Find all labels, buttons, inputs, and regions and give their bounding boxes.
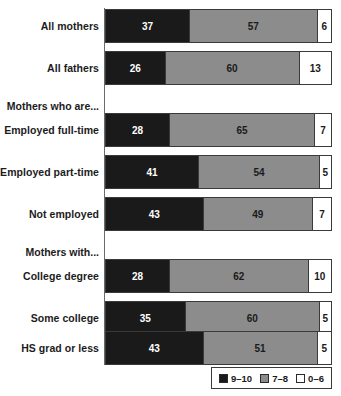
- stacked-bar: 26 60 13: [105, 51, 332, 85]
- segment-0-6: 5: [320, 302, 331, 334]
- segment-0-6: 10: [309, 260, 332, 292]
- segment-9-10: 26: [106, 52, 165, 84]
- segment-7-8: 49: [203, 198, 313, 230]
- segment-7-8: 62: [169, 260, 309, 292]
- segment-9-10: 37: [106, 10, 189, 42]
- segment-7-8: 60: [165, 52, 300, 84]
- legend-swatch-icon: [219, 374, 228, 383]
- legend-swatch-icon: [260, 374, 269, 383]
- legend-item-0-6: 0–6: [296, 373, 324, 384]
- segment-9-10: 28: [106, 260, 169, 292]
- segment-7-8: 54: [198, 156, 320, 188]
- legend-label: 9–10: [231, 373, 252, 384]
- segment-0-6: 5: [318, 332, 332, 364]
- stacked-bar: 37 57 6: [105, 9, 332, 43]
- legend-swatch-icon: [296, 374, 305, 383]
- row-label: Employed full-time: [0, 113, 99, 147]
- stacked-bar: 28 62 10: [105, 259, 332, 293]
- row-label: Not employed: [0, 197, 99, 231]
- segment-9-10: 43: [106, 332, 203, 364]
- segment-9-10: 28: [106, 114, 169, 146]
- stacked-bar: 35 60 5: [105, 301, 332, 335]
- segment-7-8: 65: [169, 114, 315, 146]
- segment-0-6: 6: [318, 10, 332, 42]
- legend-item-7-8: 7–8: [260, 373, 288, 384]
- legend-label: 7–8: [272, 373, 288, 384]
- segment-0-6: 7: [315, 114, 331, 146]
- chart-legend: 9–10 7–8 0–6: [211, 367, 332, 389]
- row-label: Some college: [0, 301, 99, 335]
- legend-item-9-10: 9–10: [219, 373, 252, 384]
- segment-9-10: 35: [106, 302, 185, 334]
- segment-0-6: 13: [300, 52, 332, 84]
- segment-7-8: 51: [203, 332, 318, 364]
- stacked-bar: 43 49 7: [105, 197, 332, 231]
- plot-area: All mothers 37 57 6 All fathers 26 60 13…: [0, 0, 341, 396]
- row-label: College degree: [0, 259, 99, 293]
- segment-0-6: 5: [320, 156, 331, 188]
- segment-9-10: 43: [106, 198, 203, 230]
- legend-label: 0–6: [308, 373, 324, 384]
- row-label: Employed part-time: [0, 155, 99, 189]
- row-label: All mothers: [0, 9, 99, 43]
- stacked-bar: 43 51 5: [105, 331, 332, 365]
- row-label: All fathers: [0, 51, 99, 85]
- segment-0-6: 7: [313, 198, 331, 230]
- segment-9-10: 41: [106, 156, 198, 188]
- segment-7-8: 60: [185, 302, 320, 334]
- stacked-bar-chart: All mothers 37 57 6 All fathers 26 60 13…: [0, 0, 341, 396]
- segment-7-8: 57: [189, 10, 317, 42]
- stacked-bar: 28 65 7: [105, 113, 332, 147]
- stacked-bar: 41 54 5: [105, 155, 332, 189]
- row-label: HS grad or less: [0, 331, 99, 365]
